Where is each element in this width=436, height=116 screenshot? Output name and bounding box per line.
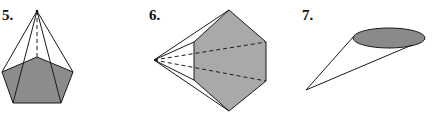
figure-5-pentagonal-pyramid: 5. — [2, 7, 73, 103]
figure-5-label: 5. — [2, 7, 14, 23]
figure-set: 5. 6. 7. — [0, 0, 436, 116]
figure-7-label: 7. — [302, 7, 314, 23]
lateral-edge — [154, 60, 194, 80]
lateral-edge — [306, 36, 354, 90]
lateral-edge — [306, 45, 412, 90]
lateral-edge — [154, 42, 194, 60]
figure-7-oblique-cone: 7. — [302, 7, 425, 90]
hexagon-base — [194, 10, 266, 111]
pentagon-base — [2, 57, 73, 103]
figure-6-label: 6. — [149, 7, 161, 23]
apex-point — [36, 10, 39, 13]
figure-6-hexagonal-pyramid: 6. — [149, 7, 266, 111]
cone-base-ellipse — [353, 28, 425, 48]
